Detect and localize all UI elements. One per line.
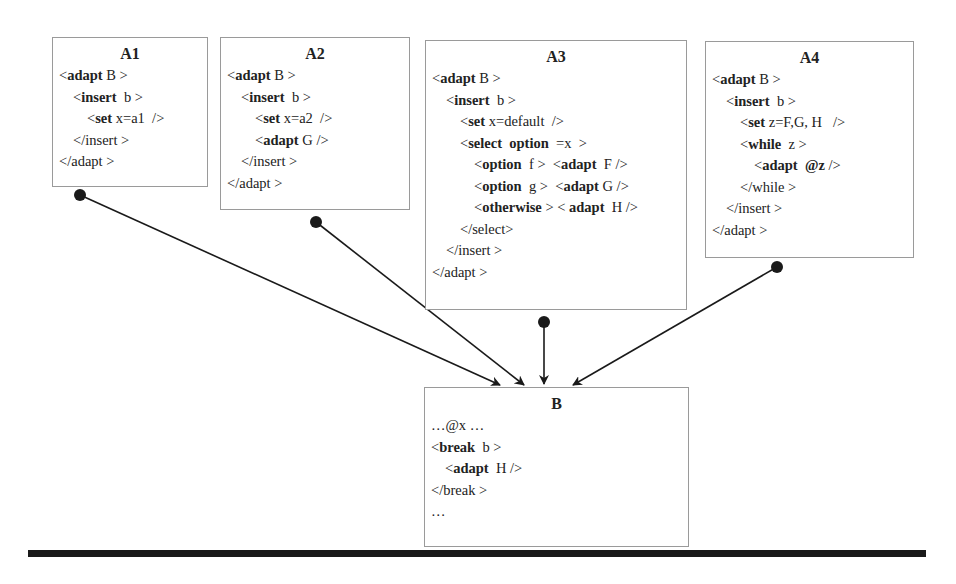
code-text: B > xyxy=(271,67,296,83)
code-block: <adapt B ><insert b ><set z=F,G, H /><wh… xyxy=(706,69,913,241)
code-text: </break > xyxy=(431,482,487,498)
code-text: < xyxy=(432,70,440,86)
code-text: < xyxy=(474,199,482,215)
code-line: <adapt B > xyxy=(221,65,409,87)
code-text: B > xyxy=(756,71,781,87)
code-text: b > xyxy=(770,93,796,109)
code-line: </insert > xyxy=(706,198,913,220)
code-line: <select option =x > xyxy=(426,133,686,155)
code-line: <set x=a1 /> xyxy=(53,108,207,130)
code-text: < xyxy=(227,67,235,83)
code-text: </adapt > xyxy=(227,175,282,191)
code-text: H /> xyxy=(604,199,638,215)
code-line: … xyxy=(425,501,688,523)
code-text: B > xyxy=(103,67,128,83)
code-line: <while z > xyxy=(706,134,913,156)
keyword: insert xyxy=(734,93,769,109)
code-line: <break b > xyxy=(425,437,688,459)
code-block: <adapt B ><insert b ><set x=default /><s… xyxy=(426,68,686,283)
keyword: set xyxy=(748,114,765,130)
box-a4: A4 <adapt B ><insert b ><set z=F,G, H />… xyxy=(705,41,914,258)
box-title: B xyxy=(425,393,688,415)
code-text: z > xyxy=(781,136,807,152)
code-text: < xyxy=(740,114,748,130)
code-text: < xyxy=(460,135,468,151)
code-text: < xyxy=(73,89,81,105)
code-line: </adapt > xyxy=(221,173,409,195)
code-text: b > xyxy=(475,439,501,455)
code-text: < xyxy=(754,157,762,173)
code-text: </insert > xyxy=(241,153,297,169)
code-line: <adapt B > xyxy=(53,65,207,87)
code-text: </insert > xyxy=(446,242,502,258)
code-text: </while > xyxy=(740,179,796,195)
keyword: adapt xyxy=(440,70,475,86)
keyword: break xyxy=(439,439,475,455)
box-title: A2 xyxy=(221,43,409,65)
divider-rule xyxy=(28,550,926,557)
box-b: B …@x …<break b ><adapt H /></break >… xyxy=(424,387,689,547)
code-text: < xyxy=(726,93,734,109)
box-title: A1 xyxy=(53,43,207,65)
code-text: < xyxy=(474,178,482,194)
code-block: <adapt B ><insert b ><set x=a1 /></inser… xyxy=(53,65,207,173)
code-text: </select> xyxy=(460,221,513,237)
code-text: </adapt > xyxy=(712,222,767,238)
keyword: set xyxy=(468,113,485,129)
keyword: adapt xyxy=(569,199,604,215)
keyword: adapt @z xyxy=(762,157,825,173)
code-line: <option f > <adapt F /> xyxy=(426,154,686,176)
code-line: …@x … xyxy=(425,415,688,437)
connector-a3-to-b xyxy=(538,316,550,384)
code-block: <adapt B ><insert b ><set x=a2 /><adapt … xyxy=(221,65,409,194)
keyword: insert xyxy=(81,89,116,105)
code-line: </adapt > xyxy=(53,151,207,173)
code-line: </adapt > xyxy=(426,262,686,284)
code-text: < xyxy=(431,439,439,455)
keyword: select option xyxy=(468,135,549,151)
code-line: </insert > xyxy=(221,151,409,173)
keyword: option xyxy=(482,156,522,172)
code-text: x=default /> xyxy=(485,113,564,129)
code-line: </insert > xyxy=(426,240,686,262)
box-a3: A3 <adapt B ><insert b ><set x=default /… xyxy=(425,40,687,310)
code-line: <insert b > xyxy=(53,87,207,109)
code-text: H /> xyxy=(489,460,523,476)
code-text: < xyxy=(446,92,454,108)
code-text: > < xyxy=(542,199,569,215)
keyword: insert xyxy=(249,89,284,105)
keyword: adapt xyxy=(263,132,298,148)
code-text: < xyxy=(740,136,748,152)
code-text: G /> xyxy=(299,132,329,148)
keyword: option xyxy=(482,178,522,194)
code-text: < xyxy=(241,89,249,105)
code-text: … xyxy=(431,503,446,519)
code-line: </adapt > xyxy=(706,220,913,242)
keyword: insert xyxy=(454,92,489,108)
code-line: <adapt @z /> xyxy=(706,155,913,177)
code-text: z=F,G, H /> xyxy=(765,114,845,130)
code-text: b > xyxy=(117,89,143,105)
keyword: while xyxy=(748,136,781,152)
keyword: adapt xyxy=(453,460,488,476)
code-line: <set x=a2 /> xyxy=(221,108,409,130)
code-block: …@x …<break b ><adapt H /></break >… xyxy=(425,415,688,523)
code-text: g > < xyxy=(522,178,564,194)
code-text: x=a2 /> xyxy=(280,110,332,126)
code-text: </insert > xyxy=(73,132,129,148)
code-line: </insert > xyxy=(53,130,207,152)
code-text: < xyxy=(255,132,263,148)
keyword: adapt xyxy=(67,67,102,83)
code-text: < xyxy=(87,110,95,126)
keyword: adapt xyxy=(720,71,755,87)
code-text: =x > xyxy=(549,135,587,151)
box-a2: A2 <adapt B ><insert b ><set x=a2 /><ada… xyxy=(220,37,410,210)
code-line: <insert b > xyxy=(426,90,686,112)
code-line: <option g > <adapt G /> xyxy=(426,176,686,198)
box-title: A4 xyxy=(706,47,913,69)
code-text: B > xyxy=(476,70,501,86)
code-line: <set x=default /> xyxy=(426,111,686,133)
code-line: <insert b > xyxy=(706,91,913,113)
code-text: < xyxy=(255,110,263,126)
code-text: < xyxy=(460,113,468,129)
